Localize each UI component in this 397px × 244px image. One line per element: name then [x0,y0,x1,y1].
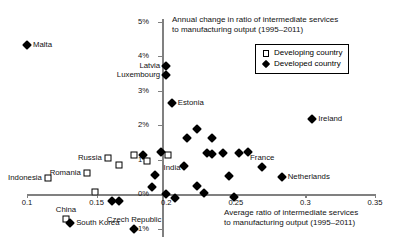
y-axis-title: Annual change in ratio of intermediate s… [172,15,338,35]
data-point [234,148,244,158]
data-point-label-latvia: Latvia [139,62,160,70]
x-tick-label: 0.35 [368,199,383,207]
y-tick-mark [158,56,162,57]
data-point [207,133,217,143]
legend-label-developed: Developed country [274,59,341,70]
y-tick-label: 5% [0,18,156,26]
y-tick-label: 4% [0,52,156,60]
data-point-label-netherlands: Netherlands [288,173,330,181]
scatter-chart: 0.10.150.20.250.30.35 5%4%3%2%1%0%-1% In… [0,0,397,244]
data-point-label-india: India [164,164,181,172]
data-point-label-china: China [56,206,76,214]
y-axis-title-line1: Annual change in ratio of intermediate s… [172,15,338,25]
data-point [92,189,99,196]
data-point-label-malta: Malta [33,41,52,49]
square-marker-icon [260,50,272,57]
data-point-label-france: France [250,154,274,162]
data-point-romania [83,169,90,176]
diamond-marker-icon [260,61,272,67]
data-point-label-russia: Russia [78,154,102,162]
data-point [218,148,228,158]
data-point-estonia [167,98,177,108]
y-tick-mark [158,125,162,126]
data-point-india [164,152,171,159]
y-tick-label: 0% [0,190,156,198]
y-tick-label: 2% [0,121,156,129]
legend-item-developed: Developed country [260,59,342,70]
x-axis-title-line1: Average ratio of intermediate services [224,208,358,218]
data-point-label-ireland: Ireland [318,115,342,123]
data-point-malta [22,40,32,50]
x-tick-label: 0.3 [300,199,311,207]
x-axis-title-line2: to manufacturing output (1995–2011) [224,218,358,228]
data-point [192,124,202,134]
y-tick-mark [158,22,162,23]
y-tick-mark [158,91,162,92]
data-point-france [257,162,267,172]
y-tick-mark [158,229,162,230]
legend: Developing country Developed country [255,44,349,74]
y-tick-label: 3% [0,87,156,95]
legend-label-developing: Developing country [274,48,342,59]
data-point-label-indonesia: Indonesia [8,175,42,183]
x-tick-label: 0.15 [89,199,104,207]
data-point-label-luxembourg: Luxembourg [117,71,160,79]
data-point-ireland [307,114,317,124]
data-point [131,152,138,159]
legend-item-developing: Developing country [260,48,342,59]
y-axis-title-line2: to manufacturing output (1995–2011) [172,25,338,35]
data-point-netherlands [277,172,287,182]
data-point-label-romania: Romania [50,169,81,177]
x-tick-label: 0.2 [161,199,172,207]
data-point [224,171,234,181]
x-axis-title: Average ratio of intermediate services t… [224,208,358,228]
y-tick-mark [158,160,162,161]
data-point-russia [104,154,111,161]
data-point [143,158,150,165]
data-point [207,149,217,159]
data-point-label-czech-republic: Czech Republic [107,216,162,224]
data-point-label-estonia: Estonia [178,99,204,107]
data-point [199,188,209,198]
x-tick-label: 0.1 [22,199,33,207]
data-point [150,170,160,180]
data-point [115,161,122,168]
data-point [182,133,192,143]
